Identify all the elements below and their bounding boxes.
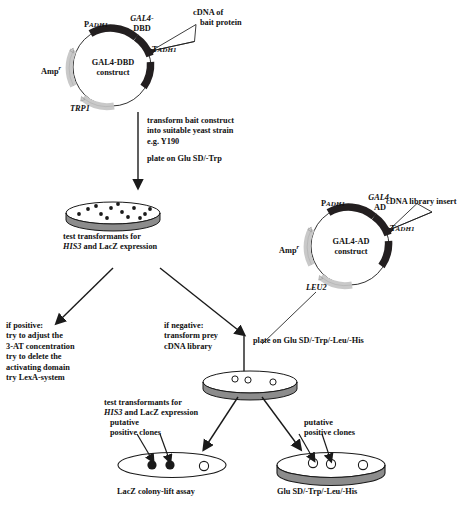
step-if-negative: if negative:transform preycDNA library bbox=[164, 321, 218, 352]
bait-terminator-label: TADH1 bbox=[152, 45, 176, 55]
step-transform-bait: transform bait constructinto suitable ye… bbox=[147, 116, 234, 147]
prey-leu2-marker-label: LEU2 bbox=[306, 283, 327, 293]
bait-promoter-label: PADH1 bbox=[84, 20, 108, 30]
bait-amp-marker-label: Ampr bbox=[41, 64, 61, 77]
plate-triple-dropout bbox=[277, 434, 385, 486]
prey-amp-marker-label: Ampr bbox=[279, 243, 299, 256]
prey-promoter-label: PADH1 bbox=[321, 199, 345, 209]
step-if-positive: if positive:try to adjust the3-AT concen… bbox=[6, 321, 75, 384]
prey-insert-label: cDNA library insert bbox=[386, 197, 457, 207]
bait-gene-label: GAL4-DBD bbox=[124, 14, 160, 35]
bait-construct-center-label: GAL4-DBDconstruct bbox=[82, 58, 144, 79]
label-putative-positive-left: putativepositive clones bbox=[110, 418, 161, 439]
diagram-canvas: PADH1 GAL4-DBD TADH1 cDNA ofbait protein… bbox=[0, 0, 473, 514]
plate-transformants-2 bbox=[203, 371, 297, 400]
prey-construct-center-label: GAL4-ADconstruct bbox=[322, 237, 380, 258]
label-putative-positive-right: putativepositive clones bbox=[304, 418, 355, 439]
caption-triple-dropout: Glu SD/-Trp/-Leu/-His bbox=[277, 487, 357, 497]
step-plate-triple: plate on Glu SD/-Trp/-Leu/-His bbox=[253, 336, 364, 346]
step-test-transformants-1: test transformants forHIS3 and LacZ expr… bbox=[63, 232, 157, 253]
step-plate-trp: plate on Glu SD/-Trp bbox=[147, 154, 222, 164]
plate-transformants-1 bbox=[66, 202, 160, 231]
bait-insert-label: cDNA ofbait protein bbox=[193, 8, 242, 29]
bait-trp1-marker-label: TRP1 bbox=[70, 104, 90, 114]
diagram-graphics bbox=[0, 0, 473, 514]
caption-lacz-assay: LacZ colony-lift assay bbox=[117, 487, 195, 497]
prey-terminator-label: TADH1 bbox=[390, 224, 414, 234]
step-test-transformants-2: test transformants forHIS3 and LacZ expr… bbox=[104, 398, 198, 419]
